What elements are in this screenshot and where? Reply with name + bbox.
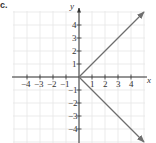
x-axis-label: x [147,76,151,85]
x-tick-label: 4 [129,80,134,89]
graph-plot [0,0,156,143]
y-tick-label: 4 [72,21,77,30]
y-tick-label: 3 [72,34,77,43]
y-tick-label: −3 [68,112,78,121]
x-tick-label: −2 [47,80,57,89]
x-tick-label: 1 [90,80,95,89]
y-tick-label: −1 [68,86,78,95]
x-tick-label: −4 [21,80,31,89]
axes [12,8,147,143]
y-tick-label: −4 [68,125,78,134]
y-axis-label: y [70,2,74,11]
y-tick-label: 2 [72,47,77,56]
y-tick-label: −2 [68,99,78,108]
x-tick-label: 2 [103,80,108,89]
x-tick-label: −3 [34,80,44,89]
x-tick-label: 3 [116,80,121,89]
y-tick-label: 1 [72,60,77,69]
